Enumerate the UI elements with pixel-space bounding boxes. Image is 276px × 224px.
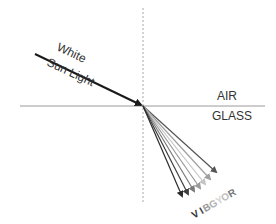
refracted-ray-green [143, 106, 200, 188]
refracted-ray-orange [143, 106, 210, 179]
refracted-ray-indigo [143, 106, 188, 194]
refraction-diagram: White Sun Light AIR GLASS V I B G Y O R [0, 0, 276, 224]
refracted-ray-red [143, 106, 216, 172]
refracted-ray-blue [143, 106, 194, 191]
spectrum-labels: V I B G Y O R [190, 186, 239, 221]
refracted-ray-yellow [143, 106, 205, 184]
medium-glass-label: GLASS [212, 109, 252, 123]
refracted-ray-violet [143, 106, 182, 196]
medium-air-label: AIR [217, 89, 237, 103]
